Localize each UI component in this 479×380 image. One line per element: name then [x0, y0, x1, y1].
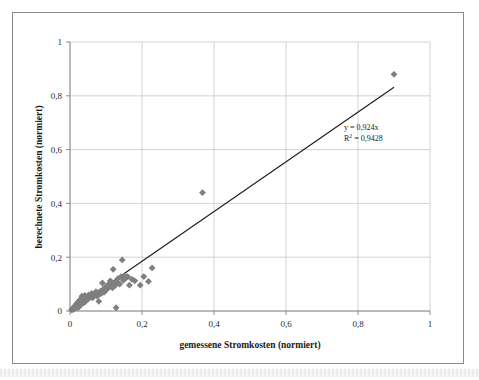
x-tick-label: 0,2 [136, 319, 147, 329]
trendline-equation-label: y = 0,924x [344, 123, 379, 132]
plot-area-background [70, 42, 430, 311]
r-squared-value: = 0,9428 [352, 134, 383, 143]
y-tick-label: 0,8 [51, 91, 63, 101]
x-tick-label: 0,6 [280, 319, 292, 329]
x-tick-label: 0 [68, 319, 73, 329]
y-tick-label: 0 [58, 306, 63, 316]
y-tick-label: 0,6 [51, 145, 63, 155]
scatter-chart: 00,20,40,60,81 00,20,40,60,81 y = 0,924x… [12, 12, 464, 364]
y-tick-label: 0,4 [51, 199, 63, 209]
x-tick-label: 0,8 [352, 319, 364, 329]
x-tick-label: 1 [428, 319, 433, 329]
x-tick-labels: 00,20,40,60,81 [68, 319, 433, 329]
y-tick-label: 1 [58, 37, 63, 47]
scan-edge-strip [0, 369, 479, 377]
figure-root: 00,20,40,60,81 00,20,40,60,81 y = 0,924x… [0, 0, 479, 380]
y-tick-label: 0,2 [51, 253, 62, 263]
x-axis-title: gemessene Stromkosten (normiert) [179, 340, 320, 351]
y-tick-labels: 00,20,40,60,81 [51, 37, 63, 316]
y-axis-title: berechnete Stromkosten (normiert) [34, 105, 45, 248]
x-tick-label: 0,4 [208, 319, 220, 329]
